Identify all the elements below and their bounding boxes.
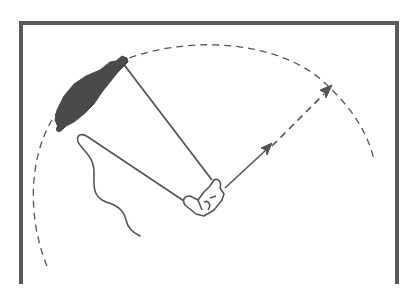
casting-illustration bbox=[0, 0, 416, 296]
fishing-line bbox=[78, 135, 187, 236]
rod bbox=[122, 62, 212, 180]
hand-icon bbox=[184, 179, 224, 216]
diagram-canvas: Casting arc illustration bbox=[0, 0, 416, 296]
lure-icon bbox=[55, 56, 128, 132]
frame bbox=[21, 23, 397, 284]
direction-arrow bbox=[225, 85, 332, 188]
